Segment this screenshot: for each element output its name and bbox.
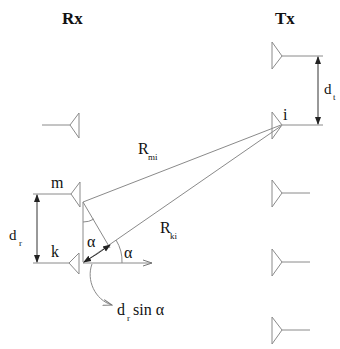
alpha-arc-inner bbox=[83, 219, 94, 222]
rx-m-label: m bbox=[51, 174, 64, 191]
path-diff-label-rest: sin α bbox=[133, 301, 165, 318]
d-r-subscript: r bbox=[19, 238, 22, 248]
r-ki-subscript: ki bbox=[170, 231, 178, 241]
path-diff-arrow-a bbox=[97, 245, 110, 254]
r-ki-ray bbox=[83, 126, 281, 263]
r-mi-ray bbox=[83, 125, 281, 202]
path-diff-label-d: d bbox=[117, 301, 125, 318]
tx-antenna-1 bbox=[272, 42, 323, 69]
alpha-arc-outer bbox=[116, 240, 122, 263]
r-mi-subscript: mi bbox=[148, 152, 158, 162]
path-diff-callout bbox=[90, 264, 112, 305]
d-t-label: d bbox=[324, 81, 332, 97]
antenna-diagram: Rx Tx d t i d r bbox=[0, 0, 340, 349]
alpha-inner-label: α bbox=[87, 233, 96, 250]
path-diff-arrow-b bbox=[84, 254, 97, 262]
tx-i-label: i bbox=[283, 106, 288, 123]
path-diff-label-sub: r bbox=[127, 313, 130, 323]
d-t-subscript: t bbox=[333, 92, 336, 102]
rx-label: Rx bbox=[62, 9, 83, 28]
tx-antenna-5 bbox=[272, 317, 310, 344]
rx-antenna-top bbox=[42, 113, 79, 138]
tx-label: Tx bbox=[275, 9, 295, 28]
rx-k-label: k bbox=[51, 243, 59, 260]
tx-antenna-3 bbox=[272, 180, 310, 207]
d-r-label: d bbox=[9, 227, 17, 243]
alpha-outer-label: α bbox=[124, 244, 133, 261]
tx-antenna-4 bbox=[272, 249, 310, 276]
